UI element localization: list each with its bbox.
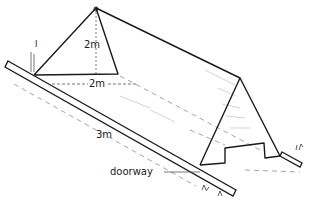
width-label: 2m — [89, 79, 105, 89]
length-label: 3m — [96, 130, 112, 140]
ground-dashed-lines — [14, 76, 300, 186]
height-label: 2m — [84, 40, 100, 50]
tent-diagram — [0, 0, 329, 208]
peg-label: l — [35, 40, 38, 49]
grass-tufts — [202, 144, 303, 196]
pole — [5, 61, 302, 196]
peg-marker — [31, 52, 34, 72]
doorway-label: doorway — [110, 167, 153, 177]
